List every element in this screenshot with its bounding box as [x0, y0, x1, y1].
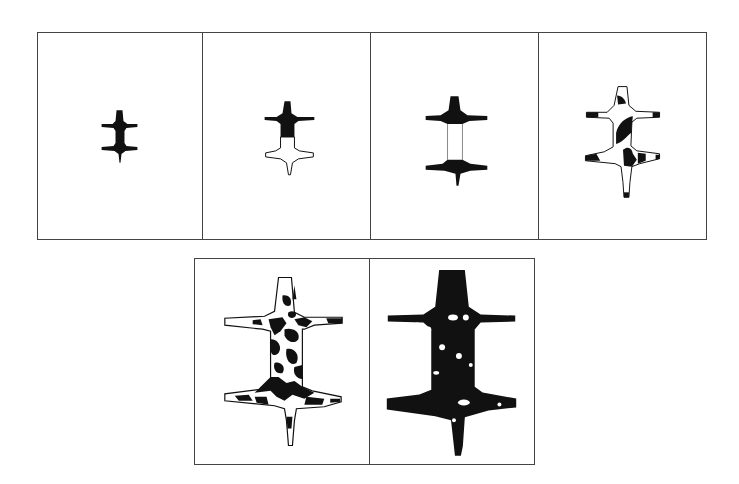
panel-6	[369, 259, 535, 464]
panel-1	[37, 33, 202, 239]
panel-3	[370, 33, 538, 239]
figure-row-bottom	[194, 258, 535, 465]
casting-shape-mostly-solid	[370, 259, 534, 464]
casting-shape-half-filled	[203, 33, 370, 239]
figure-row-top	[37, 32, 707, 240]
casting-shape-sparse-patches	[539, 33, 706, 239]
panel-5	[194, 259, 369, 464]
panel-2	[202, 33, 370, 239]
casting-shape-flanges-filled	[371, 33, 538, 239]
casting-shape-mottled	[195, 259, 369, 464]
casting-shape-solid-small	[38, 33, 202, 239]
panel-4	[538, 33, 707, 239]
